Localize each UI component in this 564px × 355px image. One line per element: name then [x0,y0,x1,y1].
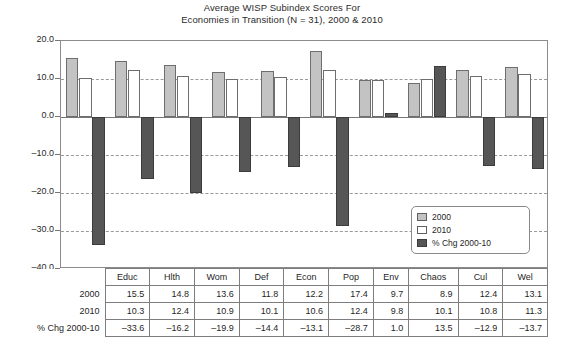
bar-2010 [372,80,385,117]
bar-2010 [470,76,483,117]
bar-pct-change [141,117,154,179]
bar-2010 [274,77,287,117]
table-header-pop: Pop [329,269,374,286]
table-cell: 10.1 [239,303,284,320]
table-header-wel: Wel [503,269,548,286]
y-axis-tick-label: 20.0 [0,34,54,44]
bar-2000 [359,80,372,117]
table-cell: –28.7 [329,320,374,337]
legend-label-2000: 2000 [432,212,451,222]
bar-2000 [115,61,128,117]
table-header-wom: Wom [194,269,239,286]
bar-2010 [518,74,531,117]
bar-2010 [128,70,141,117]
bar-2010 [226,79,239,117]
legend-item-2000: 2000 [417,210,524,223]
table-header-cul: Cul [458,269,503,286]
bar-2000 [212,72,225,117]
legend-label-2010: 2010 [432,225,451,235]
table-row-label-pct-change: % Chg 2000-10 [13,320,105,337]
table-cell: –16.2 [150,320,195,337]
y-axis-tick-label: –10.0 [0,148,54,158]
table-cell: 9.7 [373,286,408,303]
table-cell: 10.3 [105,303,150,320]
table-cell: 13.1 [503,286,548,303]
gridline [61,193,547,194]
chart-legend: 2000 2010 % Chg 2000-10 [411,206,530,254]
table-row-label-2010: 2010 [13,303,105,320]
bar-2010 [177,76,190,117]
bar-pct-change [336,117,349,226]
table-header-row: Educ Hlth Wom Def Econ Pop Env Chaos Cul… [13,269,548,286]
table-cell: 10.1 [409,303,458,320]
gridline [61,155,547,156]
bar-2000 [66,58,79,117]
legend-swatch-pct-change-icon [417,239,427,247]
table-cell: 10.6 [284,303,329,320]
data-table: Educ Hlth Wom Def Econ Pop Env Chaos Cul… [13,268,548,337]
table-cell: 13.5 [409,320,458,337]
table-header-env: Env [373,269,408,286]
table-cell: –14.4 [239,320,284,337]
table-row: % Chg 2000-10 –33.6 –16.2 –19.9 –14.4 –1… [13,320,548,337]
table-cell: –12.9 [458,320,503,337]
bar-2000 [505,67,518,117]
table-cell: 14.8 [150,286,195,303]
table-row: 2000 15.5 14.8 13.6 11.8 12.2 17.4 9.7 8… [13,286,548,303]
table-corner-cell [13,269,105,286]
legend-swatch-2000-icon [417,213,427,221]
table-cell: 1.0 [373,320,408,337]
table-header-chaos: Chaos [409,269,458,286]
legend-item-pct-change: % Chg 2000-10 [417,236,524,249]
table-cell: –13.1 [284,320,329,337]
bar-2010 [421,79,434,117]
table-cell: –33.6 [105,320,150,337]
bar-2000 [456,70,469,117]
table-row-label-2000: 2000 [13,286,105,303]
table-cell: 12.4 [329,303,374,320]
table-cell: 12.2 [284,286,329,303]
legend-item-2010: 2010 [417,223,524,236]
bar-2000 [310,51,323,117]
bar-2000 [164,65,177,117]
legend-label-pct-change: % Chg 2000-10 [432,238,491,248]
table-cell: 10.9 [194,303,239,320]
bar-pct-change [92,117,105,245]
zero-line [61,117,547,118]
table-header-econ: Econ [284,269,329,286]
bar-pct-change [483,117,496,166]
table-header-educ: Educ [105,269,150,286]
table-cell: 12.4 [458,286,503,303]
table-cell: 13.6 [194,286,239,303]
y-axis-tick-label: 0.0 [0,110,54,120]
table-cell: 12.4 [150,303,195,320]
table-header-hlth: Hlth [150,269,195,286]
y-axis-tick-label: –30.0 [0,224,54,234]
bar-pct-change [190,117,203,193]
bar-pct-change [385,113,398,117]
bar-pct-change [532,117,545,169]
bar-pct-change [434,66,447,117]
bar-pct-change [239,117,252,172]
legend-swatch-2010-icon [417,226,427,234]
table-cell: 8.9 [409,286,458,303]
bar-2000 [408,83,421,117]
bar-2010 [323,70,336,117]
table-cell: 11.3 [503,303,548,320]
table-row: 2010 10.3 12.4 10.9 10.1 10.6 12.4 9.8 1… [13,303,548,320]
table-cell: 9.8 [373,303,408,320]
table-cell: 11.8 [239,286,284,303]
table-cell: –13.7 [503,320,548,337]
table-cell: –19.9 [194,320,239,337]
bar-2010 [79,78,92,117]
table-cell: 17.4 [329,286,374,303]
bar-2000 [261,71,274,117]
y-axis-tick-label: 10.0 [0,72,54,82]
y-axis-tick-label: –20.0 [0,186,54,196]
table-cell: 15.5 [105,286,150,303]
table-header-def: Def [239,269,284,286]
table-cell: 10.8 [458,303,503,320]
bar-pct-change [288,117,301,167]
